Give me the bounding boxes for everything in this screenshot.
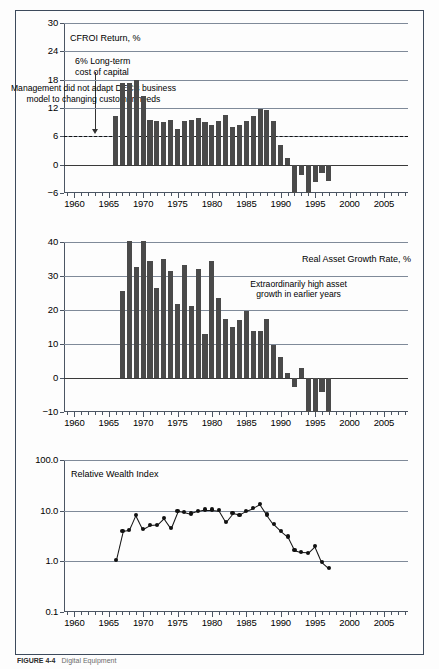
x-axis-minor-tick [253,612,254,615]
x-axis-minor-tick [363,412,364,415]
x-axis-label: 1985 [228,418,264,428]
chart-relative-wealth: Relative Wealth Index 0.11.010.0100.0196… [16,446,425,654]
x-axis-label: 1970 [125,418,161,428]
y-axis-tick [60,165,64,166]
x-axis-label: 1975 [160,618,196,628]
x-axis-minor-tick [88,412,89,415]
bar [175,129,180,164]
x-axis-minor-tick [336,193,337,196]
bar [161,259,166,378]
x-axis-minor-tick [274,412,275,415]
x-axis-minor-tick [391,193,392,196]
bar [313,165,318,182]
x-axis-minor-tick [301,193,302,196]
bar [271,345,276,378]
data-point [265,512,269,516]
x-axis-minor-tick [391,412,392,415]
bar [292,165,297,193]
asset-growth-note-line1: Extraordinarily high asset [250,279,347,289]
x-axis-minor-tick [95,412,96,415]
gridline [64,108,408,109]
y-axis-label: 10 [22,339,58,349]
x-axis-minor-tick [356,612,357,615]
x-axis-minor-tick [198,412,199,415]
data-point [155,523,159,527]
bar [182,265,187,378]
gridline [64,276,408,277]
x-axis-label: 1985 [228,199,264,209]
bar [175,304,180,378]
y-axis-tick [60,23,64,24]
data-point [292,548,296,552]
x-axis-minor-tick [157,612,158,615]
x-axis-label: 1995 [297,618,333,628]
bar [147,120,152,164]
x-axis-minor-tick [343,193,344,196]
x-axis-label: 1960 [56,199,92,209]
bar [127,241,132,378]
bar [168,271,173,378]
y-axis-label: 1.0 [22,556,58,566]
y-axis-label: −10 [22,407,58,417]
relative-wealth-title: Relative Wealth Index [71,469,158,480]
bar [313,378,318,412]
bar [258,109,263,165]
x-axis-minor-tick [405,412,406,415]
x-axis-minor-tick [405,193,406,196]
bar [285,373,290,378]
data-point [279,529,283,533]
x-axis-minor-tick [329,412,330,415]
bar [244,121,249,164]
figure-page: CFROI Return, % 6% Long-term cost of cap… [0,0,439,669]
bar [127,83,132,164]
x-axis-minor-tick [205,612,206,615]
data-point [175,509,179,513]
bar [306,165,311,193]
x-axis-label: 1965 [91,418,127,428]
bar [237,125,242,164]
x-axis-minor-tick [184,612,185,615]
y-axis-label: 0.1 [22,607,58,617]
x-axis-minor-tick [122,193,123,196]
x-axis-minor-tick [219,612,220,615]
figure-caption-text: Digital Equipment [62,657,117,664]
x-axis-label: 2005 [366,618,402,628]
x-axis-label: 1965 [91,199,127,209]
data-point [162,516,166,520]
x-axis-minor-tick [171,193,172,196]
x-axis-minor-tick [253,412,254,415]
x-axis-minor-tick [363,612,364,615]
x-axis-label: 1980 [194,618,230,628]
x-axis-minor-tick [233,412,234,415]
x-axis-minor-tick [343,612,344,615]
x-axis-minor-tick [239,612,240,615]
data-point [189,511,193,515]
x-axis-minor-tick [226,612,227,615]
asset-growth-note: Extraordinarily high asset growth in ear… [209,279,389,300]
bar [326,378,331,412]
bar [182,121,187,164]
x-axis-minor-tick [88,193,89,196]
x-axis-minor-tick [116,412,117,415]
x-axis-minor-tick [274,193,275,196]
x-axis-minor-tick [122,412,123,415]
x-axis-minor-tick [67,412,68,415]
bar [120,291,125,378]
x-axis-minor-tick [329,612,330,615]
bar [319,378,324,392]
x-axis-minor-tick [198,612,199,615]
x-axis-minor-tick [288,193,289,196]
bar [319,165,324,174]
bar [154,288,159,378]
y-axis-tick [60,80,64,81]
bar [189,306,194,378]
gridline [64,378,408,379]
bar [196,269,201,378]
x-axis-minor-tick [205,193,206,196]
bar [216,298,221,378]
x-axis-minor-tick [377,612,378,615]
data-point [237,513,241,517]
x-axis-minor-tick [102,412,103,415]
x-axis-minor-tick [322,193,323,196]
bar [251,116,256,165]
